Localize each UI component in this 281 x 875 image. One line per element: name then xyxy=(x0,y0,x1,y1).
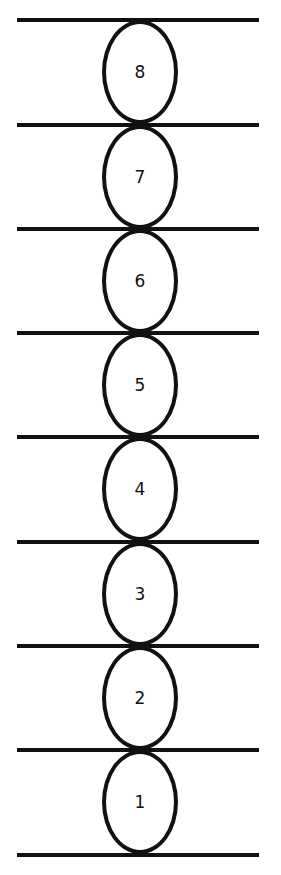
oval-label: 4 xyxy=(135,479,146,499)
oval-ladder-diagram: 8 7 6 5 4 3 2 1 xyxy=(0,0,281,875)
oval-label: 8 xyxy=(135,62,146,82)
oval-7: 7 xyxy=(102,125,178,229)
oval-3: 3 xyxy=(102,542,178,646)
oval-label: 7 xyxy=(135,167,146,187)
oval-label: 3 xyxy=(135,584,146,604)
oval-label: 2 xyxy=(135,688,146,708)
oval-8: 8 xyxy=(102,20,178,124)
oval-label: 6 xyxy=(135,271,146,291)
oval-6: 6 xyxy=(102,229,178,333)
oval-label: 1 xyxy=(135,792,146,812)
oval-label: 5 xyxy=(135,375,146,395)
oval-5: 5 xyxy=(102,333,178,437)
oval-2: 2 xyxy=(102,646,178,750)
oval-1: 1 xyxy=(102,750,178,854)
oval-4: 4 xyxy=(102,437,178,541)
